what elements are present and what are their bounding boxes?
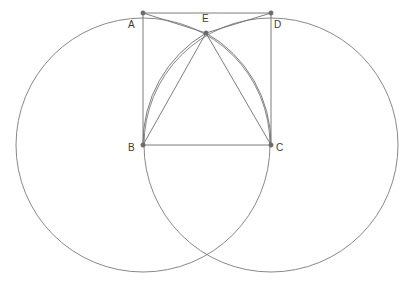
segment-ED [206,13,271,33]
vertex-label-c: C [276,143,283,153]
diagram-canvas: ADEBC [0,0,408,283]
segment-EC [206,33,271,145]
vertex-label-b: B [128,143,135,153]
vertex-dot-b [141,143,145,147]
vertex-label-a: A [128,20,135,30]
geometry-figure [0,0,408,283]
vertex-dot-e [204,31,208,35]
vertex-dot-d [269,11,273,15]
arcs-layer [143,33,271,145]
vertex-dot-a [141,11,145,15]
vertex-label-e: E [202,14,209,24]
vertex-dot-c [269,143,273,147]
segment-EB [143,33,206,145]
segment-AE [143,13,206,33]
vertex-label-d: D [274,20,281,30]
